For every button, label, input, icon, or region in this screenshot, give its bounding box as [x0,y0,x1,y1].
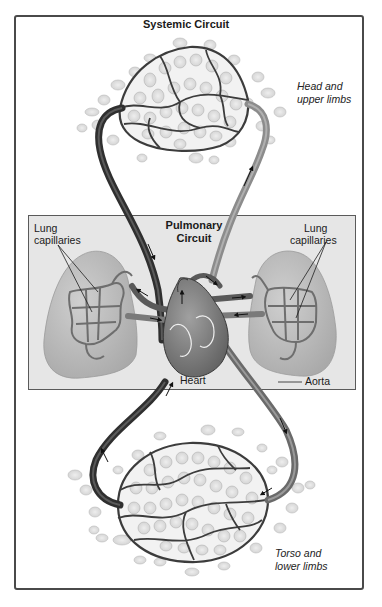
right-lung [249,242,337,376]
lung-capillaries-left-line2: capillaries [34,234,81,246]
head-label-line2: upper limbs [297,93,351,105]
left-lung [44,245,137,378]
heart [163,278,228,377]
lung-capillaries-right-line2: capillaries [290,234,337,246]
heart-label: Heart [180,374,206,386]
torso-label-line2: lower limbs [275,560,328,572]
upper-capillary-bed [77,38,286,164]
pulmonary-circuit-title-line2: Circuit [164,232,224,244]
systemic-circuit-title: Systemic Circuit [143,18,229,30]
lung-capillaries-right-line1: Lung [304,222,327,234]
torso-label-line1: Torso and [275,547,321,559]
lung-capillaries-left-line1: Lung [34,222,57,234]
aorta-label: Aorta [305,375,330,387]
head-label-line1: Head and [297,80,343,92]
pulmonary-circuit-title-line1: Pulmonary [164,219,224,231]
